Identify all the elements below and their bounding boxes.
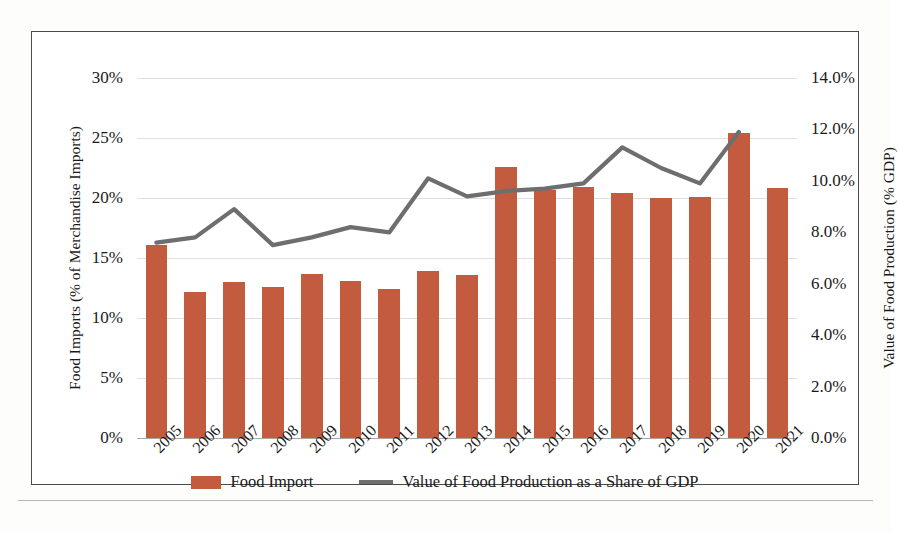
line-swatch-icon <box>359 480 393 484</box>
bar-2017 <box>611 193 633 438</box>
chart-legend: Food Import Value of Food Production as … <box>32 472 858 492</box>
y-axis-left-tick-label: 5% <box>100 369 123 386</box>
legend-label-food-import: Food Import <box>230 472 313 492</box>
chart-frame: 0%5%10%15%20%25%30% 0.0%2.0%4.0%6.0%8.0%… <box>31 31 859 485</box>
bar-2021 <box>767 188 789 438</box>
bar-swatch-icon <box>191 476 221 489</box>
bar-2020 <box>728 133 750 438</box>
y-axis-left-tick-label: 0% <box>100 429 123 446</box>
legend-item-food-import: Food Import <box>191 472 313 492</box>
bar-2010 <box>340 281 362 438</box>
y-axis-left-tick-label: 20% <box>92 189 123 206</box>
plot-area: 0%5%10%15%20%25%30% 0.0%2.0%4.0%6.0%8.0%… <box>137 78 797 438</box>
y-axis-right-tick-label: 14.0% <box>811 69 855 86</box>
bar-2016 <box>573 187 595 438</box>
y-axis-right-tick-label: 12.0% <box>811 120 855 137</box>
bar-2009 <box>301 274 323 438</box>
y-axis-left-title: Food Imports (% of Merchandise Imports) <box>66 126 84 390</box>
gridline <box>137 138 797 139</box>
legend-item-food-production: Value of Food Production as a Share of G… <box>359 472 698 492</box>
bar-2014 <box>495 167 517 438</box>
y-axis-left-tick-label: 10% <box>92 309 123 326</box>
bar-2015 <box>534 190 556 438</box>
y-axis-right-tick-label: 8.0% <box>811 223 846 240</box>
bar-2013 <box>456 275 478 438</box>
y-axis-right-tick-label: 0.0% <box>811 429 846 446</box>
bar-2019 <box>689 197 711 438</box>
bar-2011 <box>378 289 400 438</box>
y-axis-left-tick-label: 15% <box>92 249 123 266</box>
y-axis-right-tick-label: 4.0% <box>811 326 846 343</box>
y-axis-right-title: Value of Food Production (% GDP) <box>880 147 898 369</box>
gridline <box>137 78 797 79</box>
y-axis-left-tick-label: 25% <box>92 129 123 146</box>
y-axis-right-tick-label: 10.0% <box>811 172 855 189</box>
bar-2005 <box>146 245 168 438</box>
bar-2008 <box>262 287 284 438</box>
bar-2007 <box>223 282 245 438</box>
y-axis-left-tick-label: 30% <box>92 69 123 86</box>
bar-2012 <box>417 271 439 438</box>
bar-2018 <box>650 198 672 438</box>
bar-2006 <box>184 292 206 438</box>
y-axis-right-tick-label: 6.0% <box>811 275 846 292</box>
scan-artifact-rule <box>18 500 873 501</box>
y-axis-right-tick-label: 2.0% <box>811 378 846 395</box>
legend-label-food-production: Value of Food Production as a Share of G… <box>402 472 698 492</box>
